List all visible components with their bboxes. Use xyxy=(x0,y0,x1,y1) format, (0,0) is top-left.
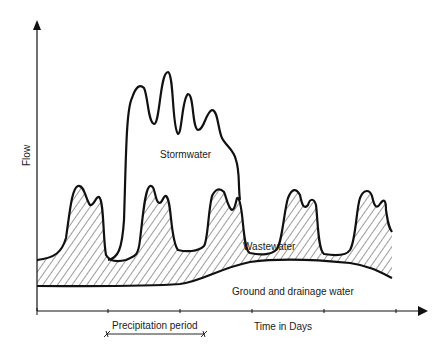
wastewater-label: Wastewater xyxy=(243,241,296,252)
precipitation-period-label: Precipitation period xyxy=(112,320,198,331)
flow-diagram: Flow Time in Days Stormwater Wastewater … xyxy=(0,0,442,356)
stormwater-label: Stormwater xyxy=(160,149,212,160)
y-axis-arrow-icon xyxy=(33,20,41,30)
ground-water-label: Ground and drainage water xyxy=(232,286,354,297)
x-axis-arrow-icon xyxy=(418,306,428,316)
precipitation-bracket xyxy=(104,331,207,337)
wastewater-hatched-area xyxy=(37,186,392,286)
x-axis-label: Time in Days xyxy=(254,321,312,332)
y-axis-label: Flow xyxy=(21,144,32,166)
